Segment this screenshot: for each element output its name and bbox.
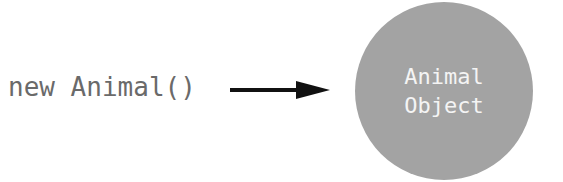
node-label-line-1: Animal <box>404 62 483 91</box>
node-label-line-2: Object <box>404 91 483 120</box>
animal-object-node: Animal Object <box>355 2 533 180</box>
constructor-call-label: new Animal() <box>8 72 196 102</box>
arrow-right-icon <box>228 78 332 102</box>
